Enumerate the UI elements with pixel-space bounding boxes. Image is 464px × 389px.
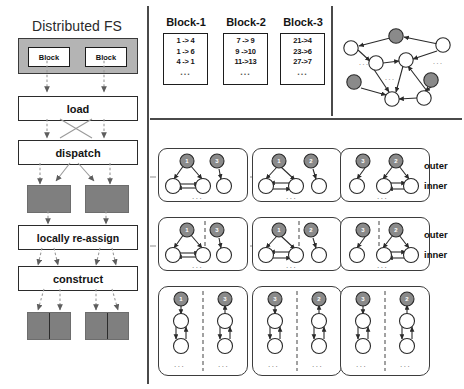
graph-ellipsis: ... bbox=[385, 74, 395, 81]
arrows-construct-to-output bbox=[0, 289, 150, 314]
block-row: 1 -> 6 bbox=[164, 47, 207, 58]
block-row: 1 -> 4 bbox=[164, 36, 207, 47]
block-row-ellipsis: ... bbox=[164, 68, 207, 79]
block-row-ellipsis: ... bbox=[224, 68, 267, 79]
graph-ellipsis: ... bbox=[433, 58, 443, 65]
partition-box-1 bbox=[27, 185, 71, 213]
partition-cell-r3c3: 3 ... 2 ... bbox=[340, 286, 430, 376]
block-row-ellipsis: ... bbox=[281, 68, 324, 79]
partition-cell-r2c1: 1 3 ... bbox=[158, 217, 248, 271]
block-row: 21->4 bbox=[281, 36, 324, 47]
cell-ellipsis: ... bbox=[356, 360, 367, 369]
graph-node-open bbox=[385, 92, 399, 106]
horizontal-divider bbox=[150, 118, 462, 120]
figure-canvas: Distributed FS Block Block load dispatch bbox=[0, 0, 464, 389]
cell-ellipsis: ... bbox=[174, 360, 185, 369]
vertical-divider-main bbox=[147, 6, 149, 384]
block-row: 9 ->10 bbox=[224, 47, 267, 58]
cell-ellipsis: ... bbox=[400, 360, 411, 369]
block-row: 7 -> 9 bbox=[224, 36, 267, 47]
block-table-3-title: Block-3 bbox=[272, 16, 334, 28]
block-table-3: 21->4 23->6 27->7 ... bbox=[280, 33, 325, 85]
block-table-2-title: Block-2 bbox=[215, 16, 277, 28]
block-row: 27->7 bbox=[281, 57, 324, 68]
graph-node-dark bbox=[389, 29, 403, 43]
graph-node-dark bbox=[424, 73, 438, 87]
row2-inner-label: inner bbox=[424, 249, 464, 260]
stage-locally-re-assign: locally re-assign bbox=[18, 225, 138, 250]
partition-cell-r1c3: 3 2 ... bbox=[340, 148, 430, 202]
block-row: 23->6 bbox=[281, 47, 324, 58]
cell-ellipsis: ... bbox=[312, 360, 323, 369]
graph-overview: ... ... ... bbox=[345, 10, 457, 112]
partition-cell-r3c2: 3 ... 2 ... bbox=[252, 286, 342, 376]
cell-ellipsis: ... bbox=[286, 192, 297, 201]
block-row: 11->13 bbox=[224, 57, 267, 68]
partition-cell-r3c1: 1 ... 3 ... bbox=[158, 286, 248, 376]
block-table-1-title: Block-1 bbox=[155, 16, 217, 28]
stage-construct: construct bbox=[18, 266, 138, 291]
cell-ellipsis: ... bbox=[192, 261, 203, 270]
partition-cell-r2c2: 1 2 ... bbox=[252, 217, 342, 271]
block-table-2: 7 -> 9 9 ->10 11->13 ... bbox=[223, 33, 268, 85]
graph-ellipsis: ... bbox=[359, 59, 369, 66]
partition-cell-r1c1: 1 3 ... bbox=[158, 148, 248, 202]
row1-outer-label: outer bbox=[424, 160, 464, 171]
graph-node-dark bbox=[347, 75, 361, 89]
arrows-dispatch-to-partitions bbox=[0, 163, 150, 187]
partition-box-2 bbox=[85, 185, 129, 213]
cell-ellipsis: ... bbox=[286, 261, 297, 270]
graph-node-open bbox=[369, 56, 383, 70]
distributed-fs-title: Distributed FS bbox=[10, 18, 144, 36]
cell-ellipsis: ... bbox=[192, 192, 203, 201]
block-row: 4 -> 1 bbox=[164, 57, 207, 68]
row2-outer-label: outer bbox=[424, 229, 464, 240]
partition-cell-r2c3: 3 2 ... bbox=[340, 217, 430, 271]
cell-ellipsis: ... bbox=[218, 360, 229, 369]
stage-dispatch: dispatch bbox=[18, 140, 138, 165]
cell-ellipsis: ... bbox=[377, 192, 388, 201]
row1-inner-label: inner bbox=[424, 180, 464, 191]
graph-node-open bbox=[417, 91, 431, 105]
graph-node-open bbox=[344, 41, 358, 55]
graph-node-open bbox=[399, 53, 413, 67]
output-box-2 bbox=[85, 312, 129, 340]
arrows-load-to-dispatch bbox=[0, 119, 150, 141]
partition-cell-r1c2: 1 2 ... bbox=[252, 148, 342, 202]
arrows-reassign-to-construct bbox=[0, 248, 150, 268]
output-box-1 bbox=[27, 312, 71, 340]
block-table-1: 1 -> 4 1 -> 6 4 -> 1 ... bbox=[163, 33, 208, 85]
cell-ellipsis: ... bbox=[268, 360, 279, 369]
stage-load: load bbox=[18, 96, 138, 121]
graph-node-open bbox=[436, 38, 450, 52]
cell-ellipsis: ... bbox=[377, 261, 388, 270]
arrows-blocks-to-load bbox=[0, 56, 150, 100]
